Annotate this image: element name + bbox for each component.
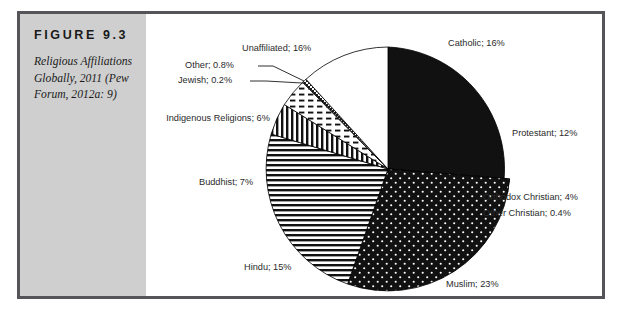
- leader-line-jewish: [250, 81, 302, 83]
- figure-number: FIGURE 9.3: [34, 28, 128, 42]
- pie-label-catholic: Catholic; 16%: [448, 38, 505, 50]
- pie-label-muslim: Muslim; 23%: [446, 279, 499, 291]
- pie-label-other: Other; 0.8%: [185, 60, 234, 72]
- figure-caption-panel: FIGURE 9.3 Religious Affiliations Global…: [20, 14, 146, 296]
- leader-line-other: [258, 66, 304, 81]
- pie-label-indigenous-religions: Indigenous Religions; 6%: [165, 113, 271, 125]
- pie-label-other-christian: Other Christian; 0.4%: [483, 208, 571, 220]
- pie-label-jewish: Jewish; 0.2%: [178, 75, 232, 87]
- figure-caption-text: Religious Affiliations Globally, 2011 (P…: [34, 54, 138, 104]
- pie-label-hindu: Hindu; 15%: [244, 262, 292, 274]
- pie-label-orthodox-christian: Orthodox Christian; 4%: [483, 192, 578, 204]
- leader-lines: [250, 66, 304, 83]
- figure-root: FIGURE 9.3 Religious Affiliations Global…: [0, 0, 619, 316]
- pie-label-unaffiliated: Unaffiliated; 16%: [242, 43, 311, 55]
- pie-label-protestant: Protestant; 12%: [512, 128, 577, 140]
- figure-frame: FIGURE 9.3 Religious Affiliations Global…: [17, 11, 605, 299]
- pie-chart: [146, 14, 608, 296]
- pie-chart-area: Unaffiliated; 16% Other; 0.8% Jewish; 0.…: [146, 14, 602, 296]
- pie-slices: [266, 47, 509, 291]
- pie-label-buddhist: Buddhist; 7%: [199, 177, 253, 189]
